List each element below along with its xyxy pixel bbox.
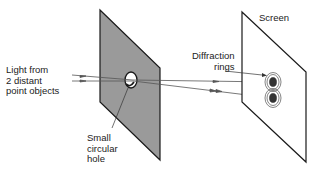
- diffraction-label: Diffraction rings: [192, 51, 235, 72]
- screen: [242, 12, 306, 162]
- screen-label: Screen: [259, 13, 289, 24]
- hole-label: Small circular hole: [87, 133, 118, 165]
- light-source-label: Light from 2 distant point objects: [6, 65, 59, 97]
